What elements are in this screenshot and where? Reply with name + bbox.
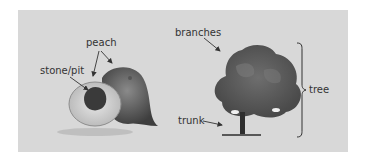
tree-crown xyxy=(215,45,301,117)
peach-illustration xyxy=(57,67,158,136)
label-peach: peach xyxy=(86,38,116,48)
tree-illustration xyxy=(215,45,301,135)
diagram-artwork xyxy=(0,0,365,158)
label-tree: tree xyxy=(309,85,329,95)
peach-stone xyxy=(84,87,106,110)
label-branches: branches xyxy=(175,28,221,38)
label-stone-pit: stone/pit xyxy=(40,66,84,76)
tree-trunk xyxy=(240,112,245,134)
label-trunk: trunk xyxy=(178,116,205,126)
